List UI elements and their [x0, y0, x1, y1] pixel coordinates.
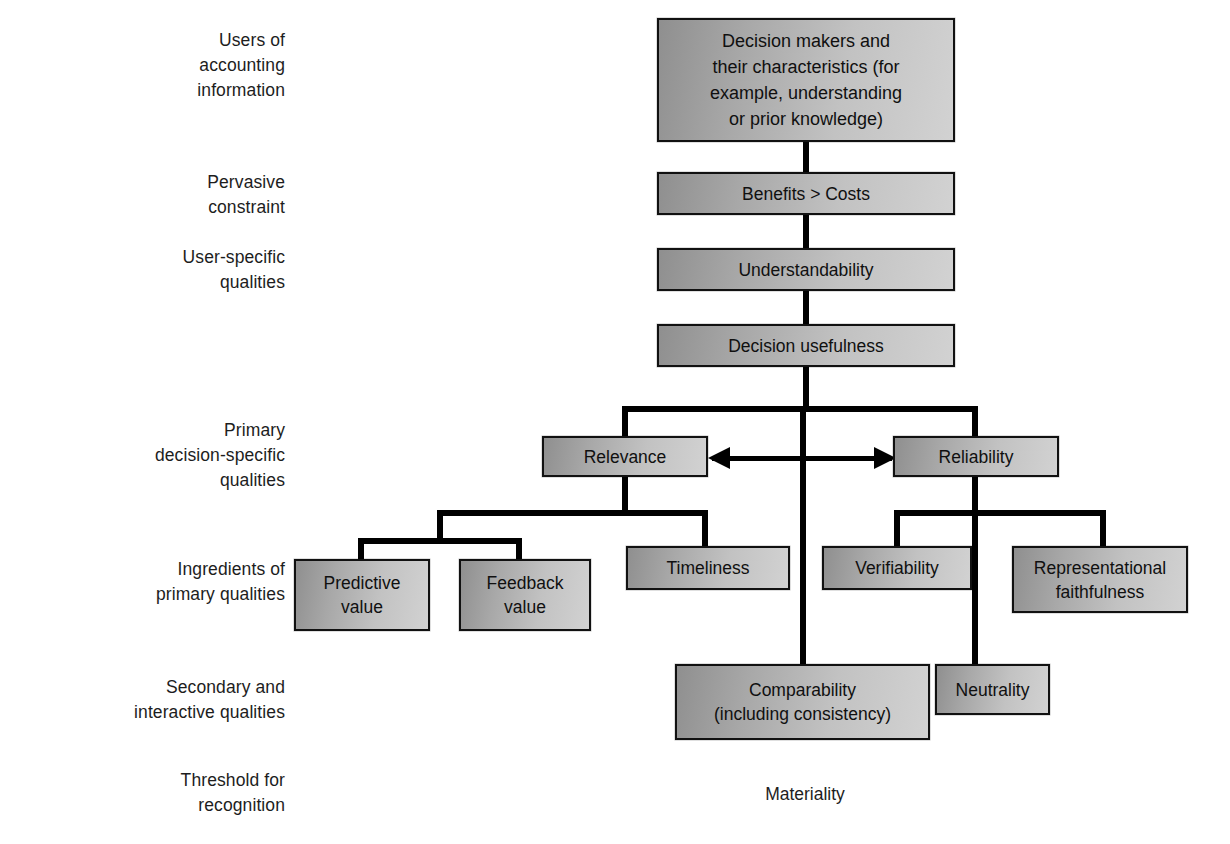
- node-benefits-costs[interactable]: Benefits > Costs: [657, 172, 955, 215]
- node-predictive-value[interactable]: Predictive value: [294, 559, 430, 631]
- node-comparability-label: Comparability (including consistency): [714, 678, 891, 726]
- node-verifiability-label: Verifiability: [855, 556, 939, 580]
- diagram-canvas: Users of accounting information Pervasiv…: [0, 0, 1230, 844]
- connector-reliabilitybus-to-neutrality: [972, 510, 978, 668]
- connector-bus-to-comparability: [800, 406, 806, 666]
- row-label-user-specific-qualities: User-specific qualities: [65, 245, 285, 295]
- row-label-pervasive-constraint: Pervasive constraint: [65, 170, 285, 220]
- node-neutrality[interactable]: Neutrality: [935, 664, 1050, 715]
- relevance-reliability-arrow-head-left: [708, 447, 730, 469]
- node-decision-makers[interactable]: Decision makers and their characteristic…: [657, 18, 955, 142]
- footer-materiality: Materiality: [655, 782, 955, 806]
- connector-reliabilitybus-to-verifiability: [894, 510, 900, 550]
- node-understandability-label: Understandability: [738, 258, 873, 282]
- node-representational-faithfulness-label: Representational faithfulness: [1034, 556, 1166, 604]
- row-label-primary-decision-specific-qualities: Primary decision-specific qualities: [65, 418, 285, 493]
- node-decision-usefulness-label: Decision usefulness: [728, 334, 884, 358]
- connector-ingredients-bus: [358, 538, 522, 544]
- node-reliability-label: Reliability: [939, 445, 1014, 469]
- node-feedback-value-label: Feedback value: [487, 571, 564, 619]
- connector-benefits-to-understandability: [803, 215, 809, 248]
- node-timeliness[interactable]: Timeliness: [626, 546, 790, 590]
- node-neutrality-label: Neutrality: [956, 678, 1030, 702]
- connector-reliabilitybus-to-representational: [1100, 510, 1106, 550]
- connector-reliability-bus: [894, 510, 1106, 516]
- connector-decisionusefulness-to-bus: [803, 367, 809, 411]
- connector-understandability-to-decisionusefulness: [803, 291, 809, 324]
- row-label-users-of-accounting-information: Users of accounting information: [65, 28, 285, 103]
- node-understandability[interactable]: Understandability: [657, 248, 955, 291]
- node-relevance-label: Relevance: [584, 445, 667, 469]
- row-label-threshold-for-recognition: Threshold for recognition: [65, 768, 285, 818]
- row-label-secondary-and-interactive-qualities: Secondary and interactive qualities: [50, 675, 285, 725]
- node-timeliness-label: Timeliness: [667, 556, 750, 580]
- node-representational-faithfulness[interactable]: Representational faithfulness: [1012, 546, 1188, 613]
- node-benefits-costs-label: Benefits > Costs: [742, 182, 870, 206]
- node-comparability[interactable]: Comparability (including consistency): [675, 664, 930, 740]
- connector-relevancebus-to-timeliness: [702, 510, 708, 550]
- relevance-reliability-arrow-shaft: [712, 456, 892, 461]
- connector-relevance-bus: [437, 510, 708, 516]
- node-reliability[interactable]: Reliability: [893, 436, 1059, 477]
- node-predictive-value-label: Predictive value: [324, 571, 401, 619]
- connector-decisionmakers-to-benefits: [803, 140, 809, 172]
- node-relevance[interactable]: Relevance: [542, 436, 708, 477]
- node-decision-makers-label: Decision makers and their characteristic…: [710, 28, 902, 132]
- row-label-ingredients-of-primary-qualities: Ingredients of primary qualities: [55, 557, 285, 607]
- node-decision-usefulness[interactable]: Decision usefulness: [657, 324, 955, 367]
- node-verifiability[interactable]: Verifiability: [822, 546, 972, 590]
- node-feedback-value[interactable]: Feedback value: [459, 559, 591, 631]
